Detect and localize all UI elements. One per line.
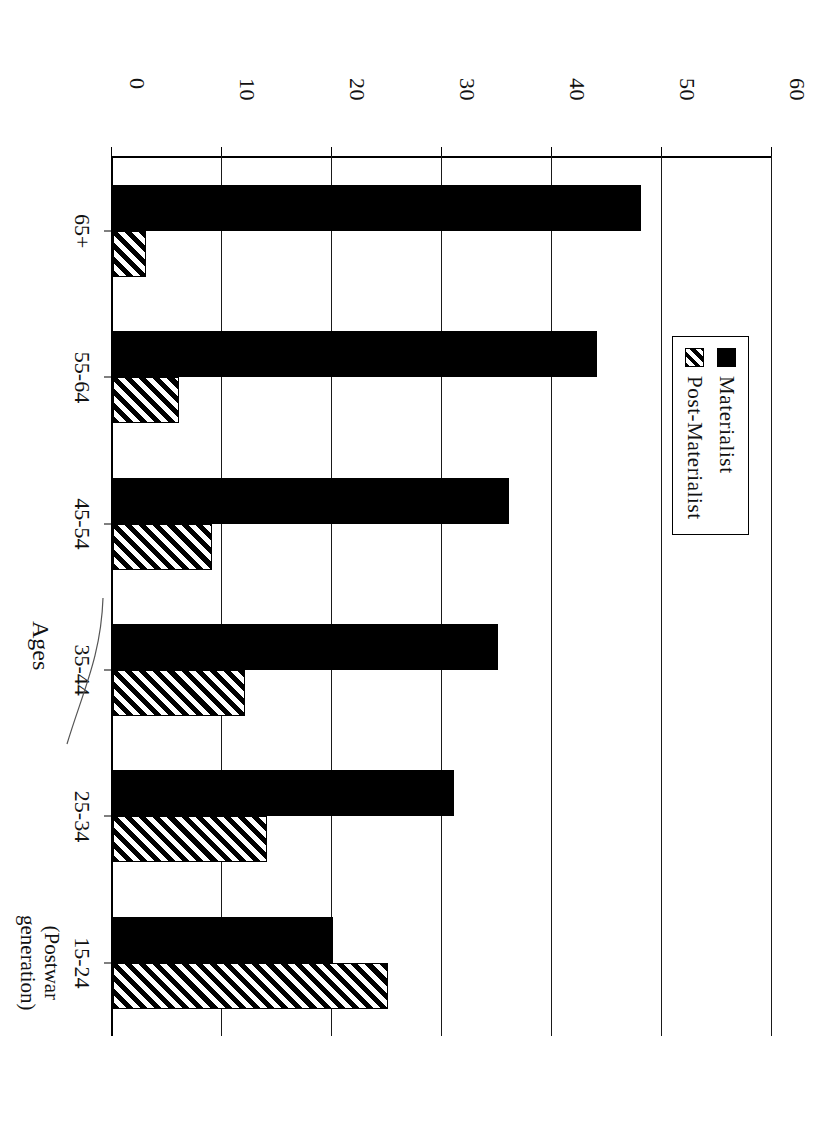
- bar-materialist: [113, 185, 641, 231]
- value-axis-tick: [551, 147, 552, 156]
- bars: [113, 743, 771, 889]
- bars: [113, 889, 771, 1035]
- category-axis-tick: [104, 523, 113, 524]
- axis-title-leader-line: [63, 596, 105, 746]
- x-axis-title: Ages: [27, 621, 54, 670]
- value-axis-tick-label: 40: [564, 78, 590, 101]
- category-axis-label: 65+: [69, 213, 94, 247]
- bar-group: 65+: [113, 158, 771, 304]
- value-axis-tick: [221, 147, 222, 156]
- category-axis-label: 55-64: [69, 351, 94, 402]
- category-axis-label: 15-24(Postwargeneration): [15, 914, 95, 1010]
- bars: [113, 596, 771, 742]
- bar-materialist: [113, 916, 333, 962]
- bar-post-materialist: [113, 670, 245, 716]
- value-axis-tick: [331, 147, 332, 156]
- bars: [113, 304, 771, 450]
- value-axis-tick: [771, 147, 772, 156]
- bar-post-materialist: [113, 816, 267, 862]
- value-axis-tick-label: 50: [674, 78, 700, 101]
- bar-materialist: [113, 331, 597, 377]
- bar-post-materialist: [113, 377, 179, 423]
- value-axis-tick-label: 0: [124, 78, 150, 90]
- value-axis-tick-label: 30: [454, 78, 480, 101]
- value-axis-tick: [661, 147, 662, 156]
- rotated-figure-container: Materialist Post-Materialist 01020304050…: [21, 36, 811, 1086]
- value-axis-tick-label: 20: [344, 78, 370, 101]
- bar-materialist: [113, 477, 509, 523]
- bar-post-materialist: [113, 231, 146, 277]
- category-axis-tick: [104, 376, 113, 377]
- category-axis-tick: [104, 815, 113, 816]
- category-axis-tick: [104, 230, 113, 231]
- category-axis-label: 45-54: [69, 498, 94, 549]
- bar-group: 35-44: [113, 596, 771, 742]
- bar-materialist: [113, 624, 498, 670]
- bar-group: 45-54: [113, 450, 771, 596]
- value-axis-tick-label: 10: [234, 78, 260, 101]
- bar-materialist: [113, 770, 454, 816]
- plot-area: 0102030405060 65+55-6445-5435-4425-3415-…: [111, 156, 771, 1036]
- bar-group: 15-24(Postwargeneration): [113, 889, 771, 1035]
- value-axis-tick-label: 60: [784, 78, 810, 101]
- bar-group: 25-34: [113, 743, 771, 889]
- bar-post-materialist: [113, 523, 212, 569]
- value-axis-tick: [441, 147, 442, 156]
- value-axis-tick: [111, 147, 112, 156]
- category-axis-label: 25-34: [69, 790, 94, 841]
- bar-groups: 65+55-6445-5435-4425-3415-24(Postwargene…: [113, 158, 771, 1036]
- bars: [113, 450, 771, 596]
- bar-chart-figure: Materialist Post-Materialist 01020304050…: [21, 36, 811, 1086]
- category-axis-sublabel: (Postwargeneration): [15, 914, 63, 1010]
- bars: [113, 158, 771, 304]
- bar-group: 55-64: [113, 304, 771, 450]
- category-axis-tick: [104, 962, 113, 963]
- bar-post-materialist: [113, 962, 388, 1008]
